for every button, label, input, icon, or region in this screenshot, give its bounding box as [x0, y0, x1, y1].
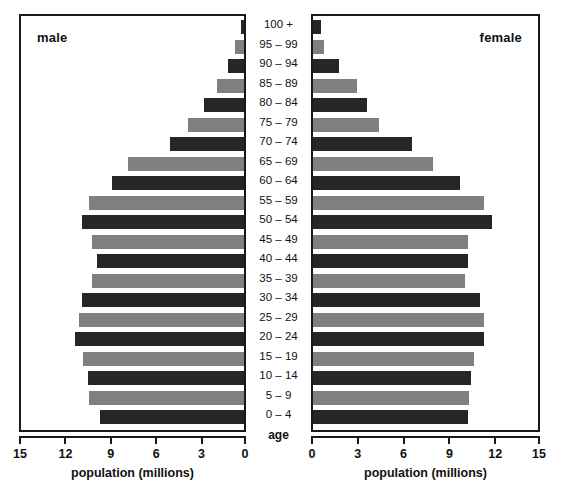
- age-label-column: 100 +95 – 9990 – 9485 – 8980 – 8475 – 79…: [246, 14, 311, 432]
- female-bar: [313, 254, 468, 268]
- age-group-label: 20 – 24: [246, 329, 311, 343]
- female-bar: [313, 215, 492, 229]
- age-group-label: 100 +: [246, 17, 311, 31]
- female-bar-row: [313, 137, 538, 151]
- female-bar-row: [313, 313, 538, 327]
- male-bar: [228, 59, 244, 73]
- axis-tick-label: 9: [434, 447, 464, 461]
- axis-tick-label: 12: [50, 447, 80, 461]
- male-bar-row: [21, 274, 244, 288]
- male-bar: [89, 391, 244, 405]
- axis-tick: [110, 436, 112, 444]
- male-bar: [92, 235, 244, 249]
- male-panel: male: [19, 14, 246, 432]
- axis-tick-label: 3: [343, 447, 373, 461]
- age-group-label: 25 – 29: [246, 310, 311, 324]
- age-group-label: 60 – 64: [246, 173, 311, 187]
- age-group-label: 75 – 79: [246, 115, 311, 129]
- male-bar: [217, 79, 244, 93]
- axis-tick-label: 15: [5, 447, 35, 461]
- male-bar-row: [21, 293, 244, 307]
- male-bar-row: [21, 410, 244, 424]
- male-bar: [112, 176, 244, 190]
- female-bar-row: [313, 157, 538, 171]
- male-bar-row: [21, 40, 244, 54]
- male-bar-row: [21, 118, 244, 132]
- female-bar-row: [313, 20, 538, 34]
- age-group-label: 80 – 84: [246, 95, 311, 109]
- female-bar-row: [313, 352, 538, 366]
- age-axis-title: age: [246, 428, 311, 442]
- female-bar: [313, 79, 357, 93]
- female-axis-title: population (millions): [311, 466, 540, 480]
- male-bar-row: [21, 215, 244, 229]
- male-bar: [128, 157, 244, 171]
- axis-tick-label: 15: [524, 447, 554, 461]
- male-bar: [204, 98, 244, 112]
- axis-tick: [538, 436, 540, 444]
- female-bar: [313, 20, 321, 34]
- axis-tick-label: 3: [187, 447, 217, 461]
- male-x-axis: population (millions) 15129630: [19, 436, 246, 437]
- male-axis-title: population (millions): [19, 466, 246, 480]
- axis-tick-label: 0: [230, 447, 260, 461]
- age-group-label: 70 – 74: [246, 134, 311, 148]
- male-bar: [83, 352, 244, 366]
- female-bar-row: [313, 215, 538, 229]
- female-x-axis: population (millions) 03691215: [311, 436, 540, 437]
- male-bar: [188, 118, 244, 132]
- male-bar-row: [21, 98, 244, 112]
- female-bar: [313, 371, 471, 385]
- female-bar: [313, 59, 339, 73]
- female-bar-row: [313, 235, 538, 249]
- axis-tick: [155, 436, 157, 444]
- male-bar-row: [21, 157, 244, 171]
- female-bar: [313, 235, 468, 249]
- age-group-label: 10 – 14: [246, 368, 311, 382]
- axis-tick: [311, 436, 313, 444]
- axis-tick: [494, 436, 496, 444]
- age-group-label: 30 – 34: [246, 290, 311, 304]
- female-bar: [313, 98, 367, 112]
- male-bar: [235, 40, 244, 54]
- female-bar: [313, 40, 324, 54]
- male-bar-row: [21, 352, 244, 366]
- axis-tick-label: 6: [141, 447, 171, 461]
- male-bar-row: [21, 176, 244, 190]
- male-bar: [88, 371, 244, 385]
- male-bar: [82, 215, 244, 229]
- female-bar: [313, 391, 469, 405]
- female-bar-row: [313, 410, 538, 424]
- female-bar: [313, 176, 460, 190]
- axis-tick: [244, 436, 246, 444]
- female-bar: [313, 118, 379, 132]
- population-pyramid-chart: male 100 +95 – 9990 – 9485 – 8980 – 8475…: [0, 0, 561, 492]
- axis-tick: [357, 436, 359, 444]
- female-bar-row: [313, 391, 538, 405]
- female-bar: [313, 157, 433, 171]
- axis-tick-label: 0: [297, 447, 327, 461]
- male-bar: [82, 293, 244, 307]
- age-group-label: 0 – 4: [246, 407, 311, 421]
- age-group-label: 55 – 59: [246, 193, 311, 207]
- male-bar: [79, 313, 244, 327]
- female-bar-row: [313, 59, 538, 73]
- male-bar-row: [21, 79, 244, 93]
- female-bar-row: [313, 176, 538, 190]
- male-bar: [97, 254, 244, 268]
- female-bar: [313, 313, 484, 327]
- female-bar-row: [313, 371, 538, 385]
- age-group-label: 95 – 99: [246, 37, 311, 51]
- axis-tick: [64, 436, 66, 444]
- male-bar-row: [21, 20, 244, 34]
- age-group-label: 35 – 39: [246, 271, 311, 285]
- age-group-label: 65 – 69: [246, 154, 311, 168]
- male-bar-row: [21, 391, 244, 405]
- male-bar-row: [21, 59, 244, 73]
- female-bar-row: [313, 40, 538, 54]
- female-bar-row: [313, 118, 538, 132]
- female-bar: [313, 410, 468, 424]
- axis-tick: [448, 436, 450, 444]
- male-bar-row: [21, 196, 244, 210]
- female-bar-row: [313, 254, 538, 268]
